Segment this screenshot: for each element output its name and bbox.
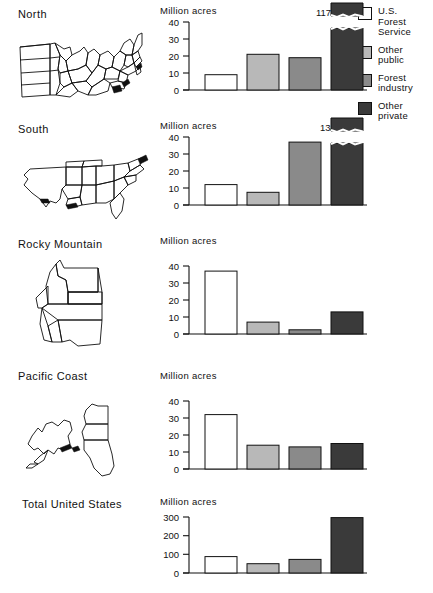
bar-forest-industry: [289, 58, 321, 90]
ytick-30: 30: [168, 413, 179, 424]
bar-other-public: [247, 445, 279, 469]
bar-other-private: [331, 444, 363, 470]
chart-pacific-coast: 0 10 20 30 40: [155, 385, 375, 475]
chart-rocky-mountain: 0 10 20 30 40: [155, 250, 375, 340]
ytick-20: 20: [168, 430, 179, 441]
bar-other-public: [247, 54, 279, 90]
bar-other-public: [247, 322, 279, 334]
break-swatch-south: [331, 118, 363, 131]
bar-usfs: [205, 185, 237, 205]
ytick-40: 40: [168, 396, 179, 407]
units-label-total-united-states: Million acres: [160, 496, 217, 507]
bar-other-public: [247, 192, 279, 205]
chart-total-united-states: 0 100 200 300: [155, 511, 375, 591]
bar-usfs: [205, 75, 237, 90]
ytick-30: 30: [168, 34, 179, 45]
ytick-10: 10: [168, 447, 179, 458]
map-south: [10, 141, 155, 223]
bar-other-private: [331, 518, 363, 573]
break-swatch-north: [331, 3, 363, 16]
panel-south: South: [0, 115, 433, 230]
ytick-300: 300: [163, 512, 179, 523]
panel-north: North: [0, 0, 433, 115]
ytick-20: 20: [168, 51, 179, 62]
ytick-20: 20: [168, 166, 179, 177]
panel-total-united-states: Total United States Million acres 0 100 …: [0, 485, 433, 593]
units-label-rocky-mountain: Million acres: [160, 235, 217, 246]
panel-rocky-mountain: Rocky Mountain Million acres: [0, 230, 433, 360]
ytick-30: 30: [168, 149, 179, 160]
bar-other-private: [331, 28, 363, 90]
bar-usfs: [205, 271, 237, 334]
region-label-rocky-mountain: Rocky Mountain: [18, 238, 102, 250]
ytick-0: 0: [174, 464, 179, 475]
chart-north-break-marker: [155, 0, 375, 20]
map-north: [8, 25, 148, 110]
region-label-total-united-states: Total United States: [22, 498, 122, 510]
bar-forest-industry: [289, 559, 321, 573]
bar-forest-industry: [289, 142, 321, 205]
map-pacific-coast: [14, 388, 139, 478]
region-label-pacific-coast: Pacific Coast: [18, 370, 87, 382]
ytick-0: 0: [174, 329, 179, 340]
ytick-200: 200: [163, 530, 179, 541]
bar-other-private: [331, 143, 363, 205]
ytick-30: 30: [168, 278, 179, 289]
ytick-10: 10: [168, 183, 179, 194]
bar-forest-industry: [289, 447, 321, 469]
chart-south-break-marker: [155, 115, 375, 135]
map-rocky-mountain: [18, 256, 133, 354]
chart-south: 0 10 20 30 40: [155, 133, 375, 215]
ytick-40: 40: [168, 261, 179, 272]
ytick-0: 0: [174, 568, 179, 579]
region-label-south: South: [18, 123, 49, 135]
ytick-10: 10: [168, 68, 179, 79]
chart-north: 0 10 20 30 40: [155, 18, 375, 100]
bar-other-public: [247, 564, 279, 573]
ytick-0: 0: [174, 200, 179, 211]
bar-forest-industry: [289, 330, 321, 334]
bar-usfs: [205, 415, 237, 469]
panel-pacific-coast: Pacific Coast Million acres: [0, 360, 433, 485]
ytick-100: 100: [163, 549, 179, 560]
ytick-10: 10: [168, 312, 179, 323]
ytick-0: 0: [174, 85, 179, 96]
region-label-north: North: [18, 8, 47, 20]
bar-other-private: [331, 312, 363, 334]
bar-usfs: [205, 557, 237, 573]
ytick-20: 20: [168, 295, 179, 306]
units-label-pacific-coast: Million acres: [160, 370, 217, 381]
